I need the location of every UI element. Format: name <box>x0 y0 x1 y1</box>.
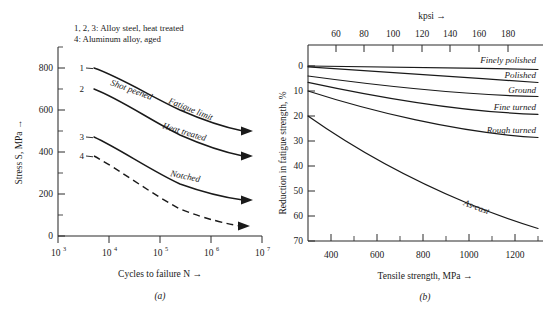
curve-label-polished: Polished <box>504 70 537 80</box>
curve-label-finely-polished: Finely polished <box>479 55 536 65</box>
svg-text:10: 10 <box>102 248 112 258</box>
y-tick-label-b-60: 60 <box>294 211 304 221</box>
y-axis-title-b: Reduction in fatigue strength, % <box>278 91 288 214</box>
top-tick-label-140: 140 <box>443 29 458 39</box>
svg-text:7: 7 <box>267 245 270 252</box>
curve-label-ground: Ground <box>508 85 536 95</box>
legend-line-2: 4: Aluminum alloy, aged <box>74 34 162 44</box>
chart-panel-b: kpsi → 60 80 100 120 140 160 180 <box>277 0 555 309</box>
x-tick-label-b-1000: 1000 <box>460 250 479 260</box>
top-tick-label-120: 120 <box>415 29 430 39</box>
curve-id-1: 1 <box>80 63 85 73</box>
y-tick-label-600: 600 <box>39 105 54 115</box>
chart-b-svg: kpsi → 60 80 100 120 140 160 180 <box>277 0 555 309</box>
y-tick-label-b-0: 0 <box>298 61 303 71</box>
svg-text:3: 3 <box>63 245 66 252</box>
x-tick-label-1e3: 10 3 <box>51 245 66 258</box>
top-tick-label-160: 160 <box>472 29 487 39</box>
x-axis-title-a: Cycles to failure N → <box>118 269 202 279</box>
chart-panel-a: 1, 2, 3: Alloy steel, heat treated 4: Al… <box>0 0 278 309</box>
y-tick-label-b-10: 10 <box>294 86 304 96</box>
curve-label-fatigue-limit: Fatigue limit <box>166 95 214 122</box>
top-tick-label-100: 100 <box>386 29 401 39</box>
x-tick-label-b-400: 400 <box>324 250 339 260</box>
curve-label-shot-peened: Shot peened <box>109 77 154 102</box>
svg-text:10: 10 <box>204 248 214 258</box>
y-tick-label-400: 400 <box>39 147 54 157</box>
y-axis-ticks-a <box>58 47 65 236</box>
curve-ground <box>308 76 538 97</box>
legend-line-1: 1, 2, 3: Alloy steel, heat treated <box>74 23 184 33</box>
panel-caption-b: (b) <box>419 292 430 303</box>
y-tick-label-b-20: 20 <box>294 111 304 121</box>
curve-label-rough-turned: Rough turned <box>486 125 537 135</box>
svg-text:4: 4 <box>114 245 118 252</box>
x-tick-label-b-600: 600 <box>370 250 385 260</box>
x-axis-ticks-b <box>331 234 538 241</box>
y-tick-label-200: 200 <box>39 189 54 199</box>
svg-text:6: 6 <box>216 245 219 252</box>
y-tick-label-b-30: 30 <box>294 136 304 146</box>
x-tick-label-b-800: 800 <box>416 250 431 260</box>
x-tick-label-1e4: 10 4 <box>102 245 118 258</box>
curve-1-leader <box>86 68 93 69</box>
y-tick-label-b-70: 70 <box>294 236 304 246</box>
y-tick-label-b-50: 50 <box>294 186 304 196</box>
svg-text:10: 10 <box>255 248 265 258</box>
y-axis-title-a: Stress S, MPa → <box>14 120 24 185</box>
x-tick-label-b-1200: 1200 <box>506 250 525 260</box>
top-tick-label-180: 180 <box>501 29 516 39</box>
curve-id-2: 2 <box>80 84 85 94</box>
svg-text:10: 10 <box>153 248 163 258</box>
curve-id-3: 3 <box>80 132 85 142</box>
top-axis-ticks-b <box>336 45 508 52</box>
y-tick-label-0: 0 <box>48 231 53 241</box>
svg-text:10: 10 <box>51 248 61 258</box>
curve-label-as-cast: As-cast <box>461 197 491 216</box>
x-axis-title-b: Tensile strength, MPa → <box>378 271 473 281</box>
y-tick-label-b-40: 40 <box>294 161 304 171</box>
top-tick-label-60: 60 <box>331 29 341 39</box>
figure-container: 1, 2, 3: Alloy steel, heat treated 4: Al… <box>0 0 555 309</box>
chart-a-svg: 1, 2, 3: Alloy steel, heat treated 4: Al… <box>0 0 278 309</box>
top-axis-title-b: kpsi → <box>418 11 446 21</box>
curve-4-aluminum-alloy <box>94 156 250 231</box>
top-tick-label-80: 80 <box>359 29 369 39</box>
x-tick-label-1e7: 10 7 <box>255 245 270 258</box>
curve-4-leader <box>86 156 93 157</box>
x-tick-label-1e5: 10 5 <box>153 245 168 258</box>
y-tick-label-800: 800 <box>39 63 54 73</box>
curve-label-notched: Notched <box>169 168 202 184</box>
curve-label-heat-treated: Heat treated <box>160 120 207 143</box>
x-axis-ticks-a <box>58 236 262 243</box>
curve-id-4: 4 <box>80 151 85 161</box>
curve-3-leader <box>86 137 93 138</box>
svg-text:5: 5 <box>165 245 168 252</box>
x-tick-label-1e6: 10 6 <box>204 245 219 258</box>
panel-caption-a: (a) <box>154 291 165 302</box>
curve-label-fine-turned: Fine turned <box>493 102 537 112</box>
